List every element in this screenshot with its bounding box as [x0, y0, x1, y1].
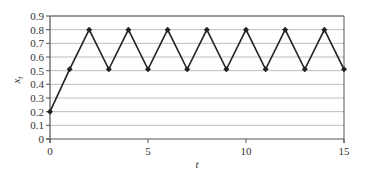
y-tick-label: 0.9 — [30, 10, 44, 22]
data-point-marker — [282, 27, 288, 33]
y-tick-label: 0.8 — [30, 24, 44, 36]
gridlines — [50, 16, 344, 125]
y-tick-label: 0.6 — [30, 51, 44, 63]
data-point-marker — [223, 66, 229, 72]
x-axis-label: t — [195, 158, 199, 170]
y-tick-label: 0.7 — [30, 37, 44, 49]
x-tick-label: 5 — [145, 145, 151, 157]
data-point-marker — [243, 27, 249, 33]
data-point-marker — [204, 27, 210, 33]
data-point-marker — [165, 27, 171, 33]
x-tick-label: 0 — [47, 145, 53, 157]
x-tick-label: 10 — [241, 145, 253, 157]
y-tick-label: 0.1 — [30, 119, 44, 131]
data-point-marker — [67, 66, 73, 72]
x-tick-label: 15 — [339, 145, 351, 157]
x-axis-ticks: 051015 — [47, 139, 350, 157]
data-point-marker — [86, 27, 92, 33]
plot-frame — [46, 16, 344, 143]
data-point-marker — [125, 27, 131, 33]
y-axis-label: xt — [10, 76, 25, 85]
data-point-marker — [145, 66, 151, 72]
y-tick-label: 0.5 — [30, 65, 44, 77]
data-point-marker — [321, 27, 327, 33]
data-point-marker — [184, 66, 190, 72]
y-tick-label: 0 — [39, 133, 45, 145]
y-tick-label: 0.3 — [30, 92, 44, 104]
y-axis-ticks: 00.10.20.30.40.50.60.70.80.9 — [30, 10, 50, 145]
y-tick-label: 0.4 — [30, 78, 44, 90]
data-point-marker — [341, 66, 347, 72]
data-point-marker — [302, 66, 308, 72]
data-point-marker — [263, 66, 269, 72]
data-point-marker — [106, 66, 112, 72]
data-point-marker — [47, 109, 53, 115]
y-tick-label: 0.2 — [30, 106, 44, 118]
line-chart: 00.10.20.30.40.50.60.70.80.9 051015 t xt — [0, 0, 365, 179]
